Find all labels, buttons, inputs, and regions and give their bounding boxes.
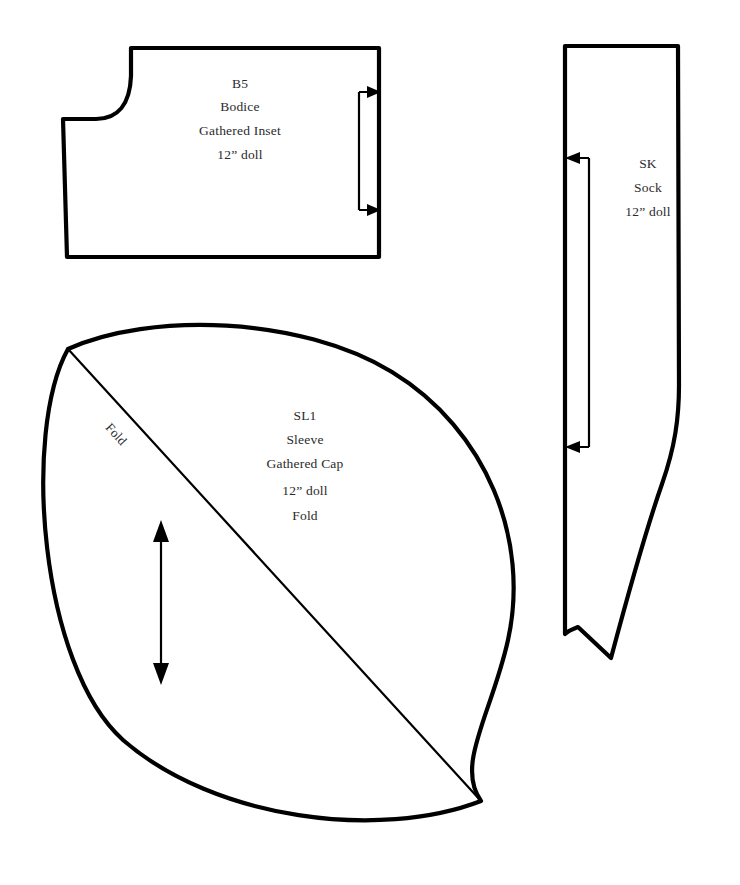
b5-size-label: 12” doll bbox=[217, 147, 263, 162]
sk-code-label: SK bbox=[639, 156, 657, 171]
b5-code-label: B5 bbox=[232, 76, 248, 91]
b5-name-label: Bodice bbox=[220, 99, 259, 114]
sl1-size-label: 12” doll bbox=[282, 483, 328, 498]
sk-size-label: 12” doll bbox=[625, 204, 671, 219]
sl1-name-label: Sleeve bbox=[286, 432, 323, 447]
b5-detail-label: Gathered Inset bbox=[199, 123, 281, 138]
pattern-piece-sk[interactable]: SK Sock 12” doll bbox=[565, 46, 679, 658]
sk-outline[interactable] bbox=[565, 46, 679, 658]
pattern-piece-b5[interactable]: B5 Bodice Gathered Inset 12” doll bbox=[63, 48, 381, 257]
sl1-detail-label: Gathered Cap bbox=[267, 456, 344, 471]
sk-name-label: Sock bbox=[634, 180, 662, 195]
pattern-canvas: B5 Bodice Gathered Inset 12” doll SK Soc… bbox=[0, 0, 740, 885]
pattern-sheet: B5 Bodice Gathered Inset 12” doll SK Soc… bbox=[0, 0, 740, 885]
sl1-code-label: SL1 bbox=[293, 408, 316, 423]
sl1-fold-label: Fold bbox=[292, 508, 318, 523]
pattern-piece-sl1[interactable]: Fold SL1 Sleeve Gathered Cap 12” doll Fo… bbox=[43, 325, 513, 820]
